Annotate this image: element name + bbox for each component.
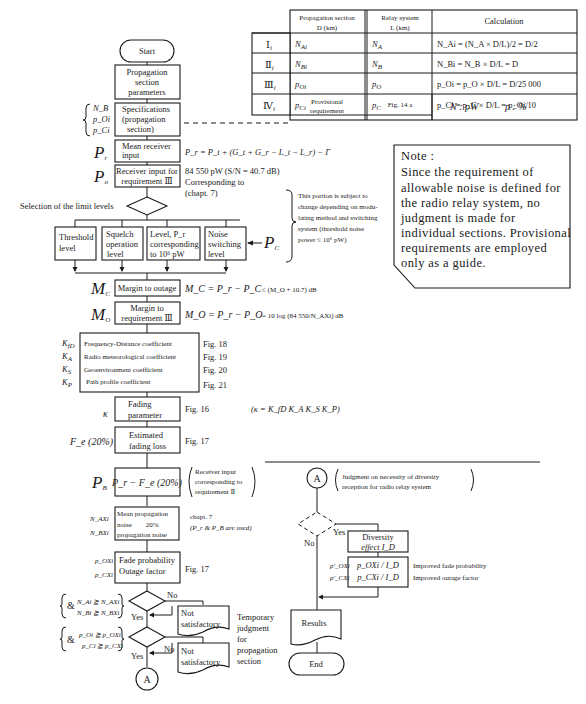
prop-params-line: Propagation <box>126 67 168 77</box>
amp-symbol: & <box>67 600 75 611</box>
kappa-symbol: κ <box>103 408 108 419</box>
footer-provisional-line2: requirement <box>310 107 344 115</box>
not-satisfactory-line: Not <box>181 646 194 656</box>
amp-symbol: & <box>67 634 75 645</box>
fe-label: F_e (20%) <box>69 436 114 448</box>
subject-note-line: power ≤ 10⁶ pW) <box>298 236 347 244</box>
po-value: 84 550 pW (S/N = 40.7 dB) <box>185 166 280 176</box>
cond-line: p_Oi ≧ p_OXi <box>78 631 121 639</box>
level-arrows <box>73 260 229 272</box>
diversity-note-line: Judgment on necessity of diversity <box>342 473 440 481</box>
not-satisfactory-line: Not <box>181 608 194 618</box>
diversity-effect-line: Diversity <box>362 532 394 542</box>
yes-label: Yes <box>131 651 143 661</box>
diversity-effect-line: effect I_D <box>361 542 396 552</box>
end-label: End <box>309 659 323 669</box>
header-section-line2: D (km) <box>317 24 338 32</box>
spec-line: Specifications <box>122 104 170 114</box>
decision-diversity <box>298 512 336 536</box>
noise-line: propagation noise <box>117 531 167 539</box>
pb-formula: P_r − F_e (20%) <box>111 477 182 489</box>
noise-var: N_BXi <box>89 529 109 537</box>
requirement-table: Propagation section D (km) Relay system … <box>252 10 577 120</box>
kappa-formula: (κ = K_fD K_A K_S K_P) <box>251 404 340 414</box>
margin-outage-label: Margin to outage <box>118 283 177 293</box>
note-line: individual sections. Provisional <box>401 226 571 240</box>
connector-a-diversity-label: A <box>313 473 321 484</box>
spec-line: section) <box>127 124 154 134</box>
improved-var: p′_CXi <box>329 574 349 582</box>
coeff-sym: KA <box>61 351 73 363</box>
coeff-sym: KS <box>61 364 72 376</box>
coeff-sym: KfD <box>61 338 75 350</box>
level-text: switching <box>208 239 242 249</box>
pb-note-line: Receiver input <box>195 468 236 476</box>
po-symbol: Po <box>93 167 108 186</box>
level-text: Noise <box>208 229 228 239</box>
header-relay-line1: Relay system <box>381 14 419 22</box>
improved-var: p′_OXi <box>329 562 350 570</box>
pr-formula: P_r = P_t + (G_t + G_r − L_t − L_r) − Γ <box>184 147 331 157</box>
note-line: only as a guide. <box>401 256 486 270</box>
header-section-line1: Propagation section <box>299 14 355 22</box>
temp-judgment-line: propagation <box>237 645 278 655</box>
fading-param-line: Fading <box>128 399 152 409</box>
po-corr-line: (chapt. 7) <box>185 188 218 198</box>
results-label: Results <box>301 618 326 628</box>
coeff-label: Path profile coefficient <box>86 378 150 386</box>
selection-diamond <box>127 197 167 215</box>
spec-var: p_Ci <box>92 125 110 135</box>
note-line: judgment is made for <box>400 211 516 225</box>
level-text: corresponding <box>150 239 199 249</box>
spec-line: (propagation <box>122 114 166 124</box>
fading-fig: Fig. 16 <box>185 404 209 414</box>
note-line: requirements are employed <box>401 241 547 255</box>
no-label: No <box>167 590 177 600</box>
mc-condition: ≤ (M_O + 10.7) dB <box>262 286 317 294</box>
po-corr-line: Corresponding to <box>185 177 244 187</box>
fade-var: p_OXi <box>94 557 113 565</box>
coeff-sym: KP <box>61 377 73 389</box>
level-text: level <box>107 249 124 259</box>
noise-line: Mean propagation <box>117 510 169 518</box>
not-satisfactory-line: satisfactory <box>181 619 221 629</box>
improved-label: Improved outage factor <box>413 574 479 582</box>
diversity-note-line: reception for radio relay system <box>342 483 432 491</box>
noise-var: N_AXi <box>89 515 109 523</box>
header-calculation: Calculation <box>484 16 524 26</box>
level-text: Level, P_r <box>150 229 186 239</box>
note-box: Note : Since the requirement of allowabl… <box>394 145 571 288</box>
coeff-fig: Fig. 20 <box>203 365 227 375</box>
spec-var: N_B <box>92 103 108 113</box>
noise-line: noise 20% <box>117 521 159 529</box>
no-label: No <box>304 538 314 548</box>
subject-note-line: This portion is subject to <box>298 192 368 200</box>
start-label: Start <box>139 46 156 56</box>
temp-judgment-line: section <box>237 656 262 666</box>
mc-symbol: MC <box>90 279 110 298</box>
connector-a-label: A <box>143 674 151 685</box>
coeff-fig: Fig. 21 <box>203 380 227 390</box>
fade-var: p_CXi <box>94 571 113 579</box>
subject-note-line: system (threshold noise <box>298 225 364 233</box>
est-fading-line: Estimated <box>129 430 164 440</box>
not-satisfactory-line: satisfactory <box>181 657 221 667</box>
level-text: Threshold <box>59 232 94 242</box>
level-text: level <box>59 243 76 253</box>
level-text: Squelch <box>106 229 134 239</box>
temp-judgment-line: judgment <box>236 623 270 633</box>
level-text: to 10⁶ pW <box>150 249 185 259</box>
selection-label: Selection of the limit levels <box>20 201 113 211</box>
mo-symbol: MO <box>90 305 110 324</box>
spec-brace <box>83 104 90 136</box>
pb-symbol: PB <box>91 473 107 492</box>
decision-fade <box>129 627 165 647</box>
mo-condition: = 10 log (84 550/N_AXi) dB <box>262 312 344 320</box>
temp-judgment-line: Temporary <box>237 612 275 622</box>
mean-rx-line: input <box>122 150 140 160</box>
note-line: allowable noise is defined for <box>401 181 561 195</box>
prop-params-line: parameters <box>128 87 165 97</box>
yes-label: Yes <box>333 527 345 537</box>
temp-judgment-line: for <box>237 634 247 644</box>
footer-fig: Fig. 14 a <box>388 101 414 109</box>
